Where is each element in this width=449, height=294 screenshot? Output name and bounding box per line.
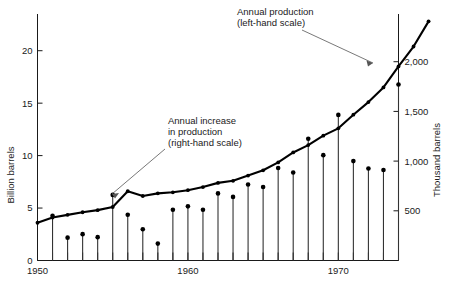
stem-dot xyxy=(396,82,401,87)
stem-dot xyxy=(321,153,326,158)
production-data-point xyxy=(171,190,175,194)
production-data-point xyxy=(291,151,295,155)
stem-dot xyxy=(291,170,296,175)
production-data-point xyxy=(126,189,130,193)
production-data-point xyxy=(397,65,401,69)
annotation-production-line-1: Annual production xyxy=(237,6,314,17)
production-data-point xyxy=(36,221,40,225)
stem-dot xyxy=(201,208,206,213)
left-tick-label: 15 xyxy=(22,98,33,109)
production-data-point xyxy=(111,205,115,209)
stem-dot xyxy=(80,232,85,237)
stem-dot xyxy=(336,113,341,118)
production-data-point xyxy=(201,185,205,189)
annotation-increase-leader xyxy=(112,149,165,194)
right-tick-label: 1,500 xyxy=(405,106,429,117)
production-data-point xyxy=(382,86,386,90)
production-data-point xyxy=(306,143,310,147)
stem-dot xyxy=(306,136,311,141)
stem-dot xyxy=(276,166,281,171)
stem-dot xyxy=(216,191,221,196)
right-tick-label: 500 xyxy=(405,205,421,216)
stem-dot xyxy=(125,212,130,217)
stem-dot xyxy=(95,235,100,240)
stem-dot xyxy=(65,235,70,240)
production-data-point xyxy=(427,19,431,23)
production-data-point xyxy=(321,134,325,138)
annotation-increase-line-2: in production xyxy=(168,126,222,137)
annotation-production-leader xyxy=(302,30,373,63)
stem-dot xyxy=(186,204,191,209)
bottom-axis-labels: 195019601970 xyxy=(27,265,349,276)
stem-dot xyxy=(140,227,145,232)
stem-dot xyxy=(246,182,251,187)
production-data-point xyxy=(231,179,235,183)
annotation-increase-line-3: (right-hand scale) xyxy=(168,137,242,148)
right-tick-label: 1,000 xyxy=(405,156,429,167)
production-data-point xyxy=(141,194,145,198)
stem-dot xyxy=(171,208,176,213)
production-data-point xyxy=(367,100,371,104)
production-data-point xyxy=(246,174,250,178)
left-axis-title: Billion barrels xyxy=(5,146,16,203)
production-data-point xyxy=(412,45,416,49)
production-data-point xyxy=(261,168,265,172)
stem-dot xyxy=(366,166,371,171)
production-data-point xyxy=(51,216,55,220)
decade-label: 1950 xyxy=(27,265,48,276)
production-data-point xyxy=(96,208,100,212)
left-tick-label: 10 xyxy=(22,150,33,161)
production-data-point xyxy=(156,191,160,195)
stem-dot xyxy=(231,195,236,200)
production-data-point xyxy=(351,113,355,117)
stem-series-annual-increase xyxy=(50,82,401,260)
decade-label: 1970 xyxy=(328,265,349,276)
chart-svg: 05101520 5001,0001,5002,000 195019601970… xyxy=(0,0,449,294)
right-tick-label: 2,000 xyxy=(405,56,429,67)
chart-container: 05101520 5001,0001,5002,000 195019601970… xyxy=(0,0,449,294)
production-data-point xyxy=(276,161,280,165)
stem-dot xyxy=(261,185,266,190)
annotation-increase-line-1: Annual increase xyxy=(168,115,236,126)
left-axis-ticks: 05101520 xyxy=(22,45,43,266)
decade-label: 1960 xyxy=(177,265,198,276)
production-data-point xyxy=(216,181,220,185)
annotation-annual-production: Annual production (left-hand scale) xyxy=(237,6,373,67)
left-tick-label: 5 xyxy=(27,202,32,213)
annotation-production-line-2: (left-hand scale) xyxy=(237,17,305,28)
stem-dot xyxy=(156,241,161,246)
stem-dot xyxy=(381,168,386,173)
production-data-point xyxy=(336,126,340,130)
stem-dot xyxy=(351,159,356,164)
annotation-annual-increase: Annual increase in production (right-han… xyxy=(112,115,242,199)
right-axis-title: Thousand barrels xyxy=(431,123,442,197)
production-data-point xyxy=(186,188,190,192)
production-data-point xyxy=(66,213,70,217)
left-tick-label: 20 xyxy=(22,45,33,56)
production-data-point xyxy=(81,210,85,214)
